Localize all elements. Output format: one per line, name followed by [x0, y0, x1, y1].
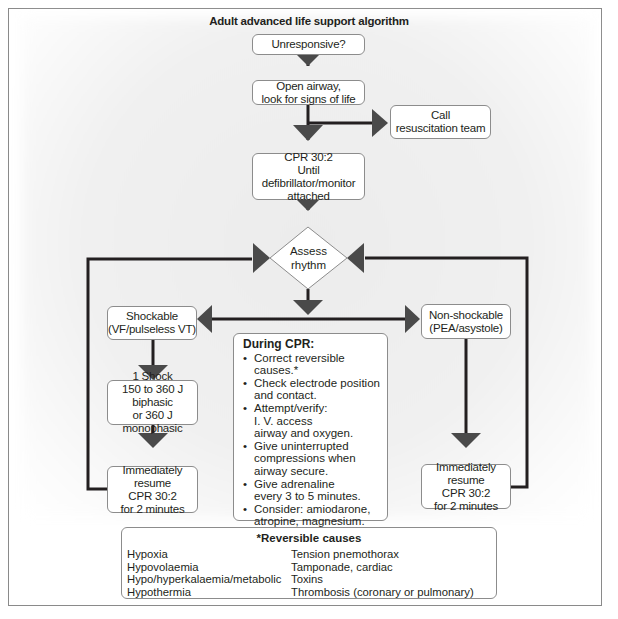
- cause-item: Hypo/hyperkalaemia/metabolic: [127, 573, 291, 585]
- node-resume-cpr-right: Immediately resume CPR 30:2 for 2 minute…: [421, 464, 511, 509]
- cause-item: Tension pnemothorax: [291, 548, 474, 560]
- cause-item: Hypothermia: [127, 586, 291, 598]
- during-cpr-item: Give uninterrupted compressions when air…: [243, 440, 381, 478]
- reversible-causes-heading: *Reversible causes: [122, 532, 496, 544]
- node-assess-rhythm: Assess rhythm: [270, 244, 347, 272]
- node-shockable: Shockable (VF/pulseless VT): [107, 306, 197, 340]
- node-resume-cpr-left: Immediately resume CPR 30:2 for 2 minute…: [107, 466, 198, 513]
- during-cpr-heading: During CPR:: [243, 338, 381, 351]
- node-shock: 1 Shock 150 to 360 J biphasic or 360 J m…: [107, 380, 198, 425]
- during-cpr-panel: During CPR: Correct reversible causes.* …: [233, 333, 388, 521]
- node-cpr-initial: CPR 30:2 Until defibrillator/monitor att…: [252, 153, 365, 200]
- during-cpr-item: Attempt/verify: I. V. access airway and …: [243, 402, 381, 440]
- cause-item: Tamponade, cardiac: [291, 561, 474, 573]
- during-cpr-item: Check electrode position and contact.: [243, 377, 381, 402]
- cause-item: Toxins: [291, 573, 474, 585]
- node-unresponsive: Unresponsive?: [252, 34, 365, 55]
- reversible-causes-left-column: Hypoxia Hypovolaemia Hypo/hyperkalaemia/…: [127, 548, 291, 598]
- reversible-causes-right-column: Tension pnemothorax Tamponade, cardiac T…: [291, 548, 474, 598]
- during-cpr-item: Consider: amiodarone, atropine, magnesiu…: [243, 503, 381, 528]
- node-open-airway: Open airway, look for signs of life: [252, 80, 365, 105]
- node-call-resuscitation-team: Call resuscitation team: [390, 105, 491, 139]
- during-cpr-list: Correct reversible causes.* Check electr…: [243, 352, 381, 528]
- cause-item: Thrombosis (coronary or pulmonary): [291, 586, 474, 598]
- during-cpr-item: Give adrenaline every 3 to 5 minutes.: [243, 478, 381, 503]
- node-non-shockable: Non-shockable (PEA/asystole): [421, 304, 511, 339]
- cause-item: Hypovolaemia: [127, 561, 291, 573]
- cause-item: Hypoxia: [127, 548, 291, 560]
- during-cpr-item: Correct reversible causes.*: [243, 352, 381, 377]
- reversible-causes-panel: *Reversible causes Hypoxia Hypovolaemia …: [121, 527, 497, 599]
